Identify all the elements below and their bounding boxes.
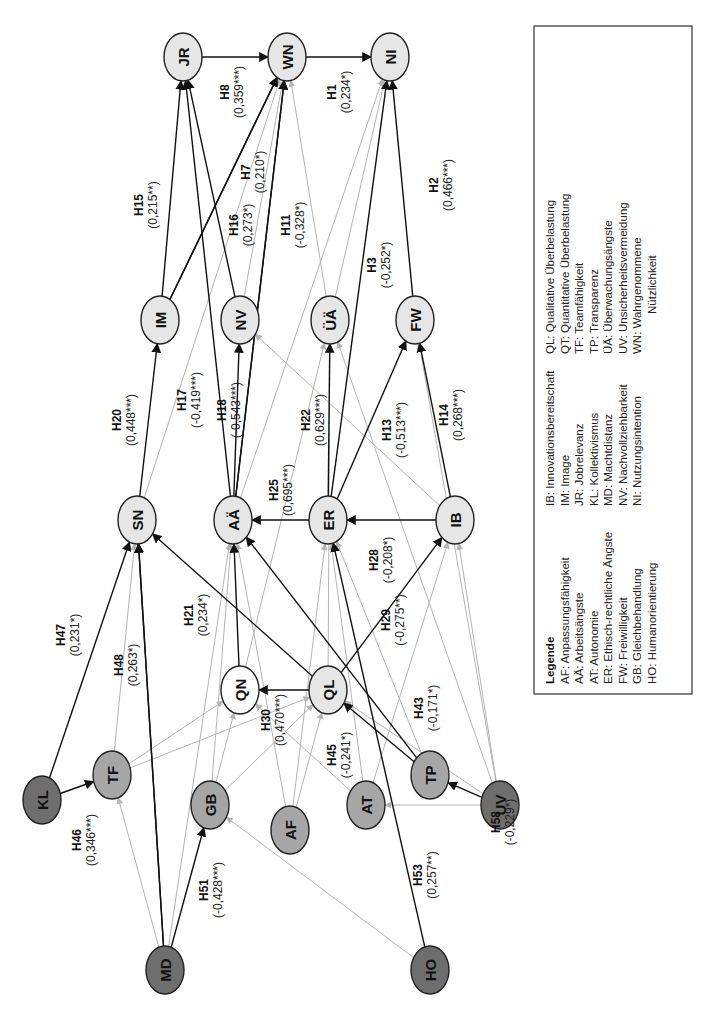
legend-entry: QT: Quantitative Überbelastung: [559, 194, 571, 354]
node-label: WN: [279, 45, 296, 70]
path-coefficient: (-0,543***): [229, 382, 243, 438]
legend-entry: FW: Freiwilligkeit: [617, 597, 629, 684]
hypothesis-H51: H51(-0,428***): [197, 862, 225, 918]
hypothesis-H20: H20(0,448***): [110, 394, 138, 446]
hypothesis-H2: H2(0,466***): [427, 159, 455, 211]
node-NV: NV: [221, 296, 259, 344]
path-coefficient: (-0,328*): [293, 202, 307, 249]
legend-entry: NI: Nutzungsintention: [631, 396, 643, 506]
legend-entry: IB: Innovationsbereitschaft: [544, 370, 556, 506]
legend-entry: Nützlichkeit: [646, 254, 658, 314]
legend-entry: WN: Wahrgenommene: [631, 237, 643, 354]
hypothesis-H21: H21(0,234*): [182, 594, 210, 637]
hypothesis-id: H25: [267, 479, 281, 501]
path-QN-to-AÄ: [234, 544, 239, 666]
path-AF-to-QL: [296, 713, 322, 808]
node-NI: NI: [371, 33, 409, 81]
hypothesis-H48: H48(0,263*): [112, 644, 140, 687]
hypothesis-H15: H15(0,215**): [132, 181, 160, 228]
legend-entry: KL: Kollektivismus: [588, 412, 600, 506]
hypothesis-id: H45: [325, 744, 339, 766]
path-SN-to-IM: [140, 344, 158, 496]
hypothesis-H14: H14(0,268***): [437, 389, 465, 441]
hypothesis-id: H29: [379, 609, 393, 631]
legend-entry: GB: Gleichbehandlung: [631, 568, 643, 684]
legend-entry: NV: Nachvollziehbarkeit: [617, 384, 629, 506]
path-TP-to-ER: [337, 541, 422, 753]
node-label: AF: [282, 820, 299, 840]
hypothesis-id: H1: [325, 84, 339, 100]
path-FW-to-NI: [392, 81, 412, 296]
path-coefficient: (-0,208*): [381, 537, 395, 584]
hypothesis-H46: H46(0,346***): [70, 814, 98, 866]
hypothesis-id: H28: [367, 549, 381, 571]
path-HO-to-GB: [226, 817, 413, 957]
node-label: FW: [407, 308, 424, 332]
node-label: NI: [382, 50, 399, 65]
hypothesis-id: H20: [110, 409, 124, 431]
legend-entry: UV: Unsicherheitsvermeidung: [617, 202, 629, 354]
hypothesis-id: H8: [218, 84, 232, 100]
legend-entry: AF: Anpassungsfähigkeit: [559, 557, 571, 684]
node-label: KL: [34, 790, 51, 810]
hypothesis-id: H13: [380, 419, 394, 441]
node-KL: KL: [23, 776, 61, 824]
path-coefficient: (-0,252*): [379, 242, 393, 289]
node-label: SN: [129, 510, 146, 531]
legend-entry: ER: Ethisch-rechtliche Ängste: [602, 532, 614, 684]
path-GB-to-QN: [216, 713, 234, 782]
path-coefficient: (-0,229*): [503, 799, 517, 846]
node-label: TF: [104, 766, 121, 784]
node-label: HO: [422, 958, 439, 981]
hypothesis-id: H43: [412, 697, 426, 719]
node-label: TP: [422, 765, 439, 784]
legend-entry: MD: Machtdistanz: [602, 414, 614, 506]
path-TP-to-QL: [344, 703, 414, 762]
node-label: AÄ: [225, 509, 242, 531]
legend-entry: HO: Humanorientierung: [646, 563, 658, 684]
hypothesis-H16: H16(0,273*): [227, 204, 255, 247]
hypothesis-id: H21: [182, 604, 196, 626]
hypothesis-H53: H53(0,257**): [411, 851, 439, 898]
node-label: JR: [175, 47, 192, 66]
hypothesis-H30: H30(0,470***): [259, 694, 287, 746]
node-HO: HO: [411, 946, 449, 994]
hypothesis-id: H11: [279, 214, 293, 236]
path-GB-to-AÄ: [212, 544, 231, 781]
node-IB: IB: [436, 496, 474, 544]
path-coefficient: (0,346***): [84, 814, 98, 866]
path-coefficient: (0,257**): [425, 851, 439, 898]
legend-entry: JR: Jobrelevanz: [573, 423, 585, 506]
hypothesis-H7: H7(0,210*): [239, 151, 267, 194]
node-ÜÄ: ÜÄ: [311, 296, 349, 344]
path-coefficient: (0,215**): [146, 181, 160, 228]
path-coefficient: (0,448***): [124, 394, 138, 446]
node-label: ER: [320, 509, 337, 530]
path-coefficient: (0,263*): [126, 644, 140, 687]
hypothesis-H13: H13(-0,513***): [380, 402, 408, 458]
node-AF: AF: [271, 806, 309, 854]
node-MD: MD: [146, 946, 184, 994]
hypothesis-id: H22: [299, 409, 313, 431]
legend-entry: AÄ: Arbeitsängste: [573, 593, 585, 684]
path-coefficient: (-0,419***): [189, 372, 203, 428]
path-coefficient: (-0,428***): [211, 862, 225, 918]
node-label: NV: [232, 310, 249, 331]
node-SN: SN: [118, 496, 156, 544]
hypothesis-id: H30: [259, 709, 273, 731]
hypothesis-id: H18: [215, 399, 229, 421]
hypothesis-H47: H47(0,231*): [54, 614, 82, 657]
path-coefficient: (0,629***): [313, 394, 327, 446]
node-QN: QN: [221, 666, 259, 714]
legend-box: Legende AF: AnpassungsfähigkeitAÄ: Arbei…: [534, 26, 692, 694]
legend-entry: AT: Autonomie: [588, 611, 600, 684]
legend-entry: ÜÄ: Überwachungsängste: [602, 220, 614, 354]
path-QL-to-SN: [153, 534, 313, 676]
hypothesis-id: H51: [197, 879, 211, 901]
legend-entry: QL: Qualitative Überbelastung: [544, 200, 556, 354]
hypothesis-id: H2: [427, 177, 441, 193]
node-AT: AT: [347, 781, 385, 829]
node-label: QL: [320, 680, 337, 701]
path-coefficient: (0,234*): [196, 594, 210, 637]
path-UV-to-IB: [459, 544, 497, 782]
